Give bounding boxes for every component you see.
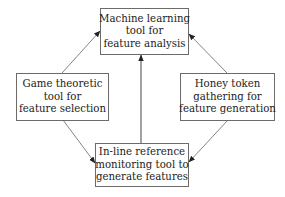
edge-right-to-top [189, 34, 227, 73]
node-label-line: feature selection [19, 103, 106, 116]
node-label-line: In-line reference [99, 146, 185, 159]
node-honey-token-gathering: Honey token gathering for feature genera… [180, 73, 275, 121]
node-label-line: feature generation [179, 103, 276, 116]
node-label-line: gathering for [193, 91, 262, 104]
node-label-line: generate features [96, 171, 188, 184]
edge-right-to-bottom [189, 120, 228, 162]
node-inline-reference-monitoring-tool: In-line reference monitoring tool to gen… [95, 143, 189, 187]
node-machine-learning-tool: Machine learning tool for feature analys… [100, 8, 189, 55]
node-label-line: feature analysis [103, 38, 185, 51]
node-label-line: Machine learning [99, 13, 190, 26]
node-label-line: Game theoretic [23, 78, 103, 91]
node-label-line: monitoring tool to [95, 159, 188, 172]
edge-left-to-top [62, 31, 100, 73]
node-label-line: Honey token [195, 78, 261, 91]
node-label-line: tool for [126, 25, 164, 38]
node-game-theoretic-tool: Game theoretic tool for feature selectio… [16, 73, 109, 121]
edge-left-to-bottom [63, 120, 95, 163]
node-label-line: tool for [44, 91, 82, 104]
